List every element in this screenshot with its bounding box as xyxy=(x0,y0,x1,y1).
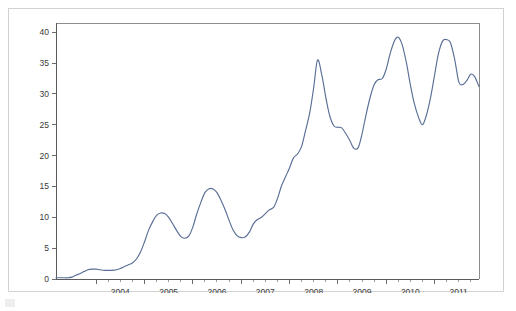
scan-artifact xyxy=(5,299,15,307)
x-tick-label: 2010 xyxy=(401,287,420,293)
x-tick-label: 2009 xyxy=(353,287,372,293)
y-tick-label: 15 xyxy=(40,181,50,191)
x-tick-label: 2004 xyxy=(111,287,130,293)
y-tick-label: 10 xyxy=(40,212,50,222)
plot-frame xyxy=(56,23,479,279)
y-tick-label: 30 xyxy=(40,89,50,99)
plot-frame-box xyxy=(56,23,479,279)
x-tick-label: 2006 xyxy=(208,287,227,293)
y-tick-label: 35 xyxy=(40,58,50,68)
x-tick-label: 2011 xyxy=(450,287,469,293)
y-tick-label: 0 xyxy=(44,274,49,284)
y-axis-ticks: 0510152025303540 xyxy=(40,27,56,284)
data-line-series-1 xyxy=(56,37,479,278)
x-tick-label: 2008 xyxy=(304,287,323,293)
chart-plot-area: 0510152025303540 20042005200620072008200… xyxy=(9,9,505,293)
y-tick-label: 20 xyxy=(40,151,50,161)
y-tick-label: 25 xyxy=(40,120,50,130)
x-tick-label: 2005 xyxy=(159,287,178,293)
chart-card: 0510152025303540 20042005200620072008200… xyxy=(8,8,504,292)
x-axis-ticks: 20042005200620072008200920102011 xyxy=(96,279,471,293)
line-chart: 0510152025303540 20042005200620072008200… xyxy=(9,9,505,293)
x-tick-label: 2007 xyxy=(256,287,275,293)
y-tick-label: 40 xyxy=(40,27,50,37)
y-tick-label: 5 xyxy=(44,243,49,253)
screenshot-root: 0510152025303540 20042005200620072008200… xyxy=(0,0,516,311)
